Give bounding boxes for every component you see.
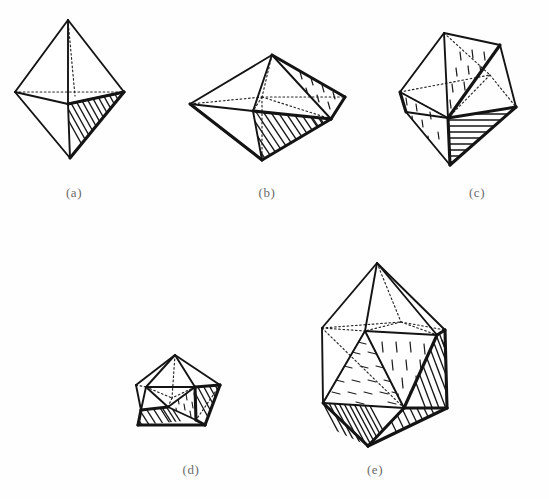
panel-e-caption: (e) (367, 462, 383, 477)
panel-b-caption: (b) (259, 185, 276, 200)
polyhedra-figure-plate: (a) (0, 0, 549, 499)
panel-c-caption: (c) (469, 185, 485, 200)
panel-d-caption: (d) (183, 462, 200, 477)
panel-a-caption: (a) (66, 185, 82, 200)
figure-canvas: (a) (0, 0, 549, 499)
